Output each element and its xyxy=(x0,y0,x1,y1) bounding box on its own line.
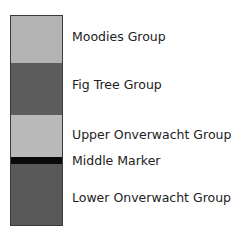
label-upper-onverwacht-group: Upper Onverwacht Group xyxy=(72,127,231,142)
layer-lower-onverwacht-group xyxy=(11,164,62,225)
layer-fig-tree-group xyxy=(11,63,62,115)
label-lower-onverwacht-group: Lower Onverwacht Group xyxy=(72,190,231,205)
label-middle-marker: Middle Marker xyxy=(72,153,160,168)
label-fig-tree-group: Fig Tree Group xyxy=(72,77,162,92)
stratigraphic-column xyxy=(10,15,63,226)
layer-upper-onverwacht-group xyxy=(11,115,62,157)
label-moodies-group: Moodies Group xyxy=(72,29,166,44)
layer-middle-marker xyxy=(11,157,62,164)
layer-moodies-group xyxy=(11,16,62,63)
